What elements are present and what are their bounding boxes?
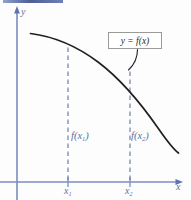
callout-box: y = f(x) (108, 32, 162, 49)
f-x1-label-head: f(x (71, 130, 82, 141)
f-x2-label: f(x2) (131, 131, 149, 142)
f-x2-label-tail: ) (145, 130, 149, 141)
y-axis-arrowhead (14, 6, 20, 14)
graph-svg (0, 0, 191, 200)
f-x2-label-sub: 2 (142, 135, 145, 142)
x2-tick-label: x2 (125, 186, 133, 196)
callout-box-label: y = f(x) (121, 36, 150, 46)
callout-leader-line (129, 50, 138, 71)
x2-tick-label-sub: 2 (129, 190, 132, 197)
x1-tick-label: x1 (64, 186, 72, 196)
x1-tick-label-sub: 1 (68, 190, 71, 197)
f-x1-label-tail: ) (85, 130, 89, 141)
f-x2-label-head: f(x (131, 130, 142, 141)
x-axis-label: x (176, 182, 180, 192)
figure-container: y = f(x) y x f(x1) f(x2) x1 x2 (0, 0, 191, 200)
f-x1-label-sub: 1 (82, 135, 85, 142)
f-x1-label: f(x1) (71, 131, 89, 142)
y-axis-label: y (21, 7, 25, 17)
function-curve (31, 34, 179, 154)
